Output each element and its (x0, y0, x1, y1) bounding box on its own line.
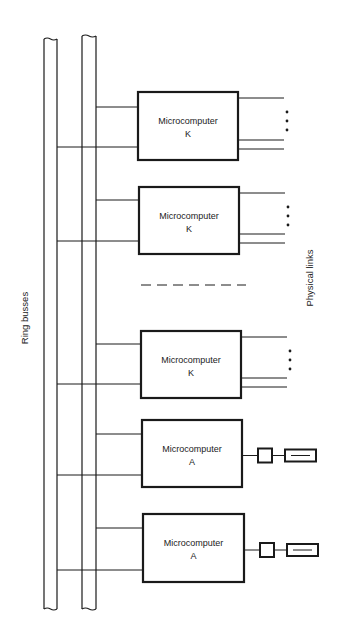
physical-links-label: Physical links (304, 249, 315, 306)
ring-busses-label: Ring busses (19, 292, 30, 345)
ellipsis-dot-icon (287, 215, 290, 218)
bus-break-top (82, 35, 96, 37)
ellipsis-dot-icon (287, 224, 290, 227)
peripheral-device (242, 449, 316, 463)
ring-bus-2 (82, 35, 96, 610)
microcomputer-a-4: MicrocomputerA (142, 420, 316, 487)
microcomputer-k-3: MicrocomputerK (141, 331, 291, 398)
microcomputer-k-2: MicrocomputerK (139, 187, 289, 254)
ring-busses (44, 35, 96, 610)
microcomputer-id: K (188, 368, 194, 378)
ellipsis-dot-icon (286, 129, 289, 132)
microcomputer-k-1: MicrocomputerK (138, 92, 288, 160)
bus-break-top (44, 38, 57, 40)
microcomputer-title: Microcomputer (159, 211, 219, 221)
bus-connections (57, 107, 143, 570)
ellipsis-dot-icon (287, 206, 290, 209)
microcomputer-title: Microcomputer (162, 444, 222, 454)
interface-square-icon (260, 543, 274, 557)
microcomputer-id: K (186, 224, 192, 234)
physical-links (241, 337, 291, 387)
peripheral-device (244, 543, 318, 557)
microcomputer-title: Microcomputer (164, 538, 224, 548)
bus-break-bottom (82, 608, 96, 610)
interface-square-icon (258, 449, 272, 463)
bus-break-bottom (44, 608, 57, 610)
microcomputer-id: K (185, 129, 191, 139)
microcomputer-title: Microcomputer (161, 355, 221, 365)
ellipsis-dot-icon (289, 368, 292, 371)
microcomputer-id: A (190, 551, 196, 561)
ellipsis-dot-icon (286, 120, 289, 123)
physical-links (239, 193, 289, 243)
ellipsis-dot-icon (286, 111, 289, 114)
physical-links (238, 98, 288, 149)
ellipsis-dot-icon (289, 350, 292, 353)
microcomputer-a-5: MicrocomputerA (143, 514, 318, 582)
ellipsis-dot-icon (289, 359, 292, 362)
microcomputer-id: A (189, 457, 195, 467)
microcomputer-title: Microcomputer (158, 116, 218, 126)
ring-bus-1 (44, 38, 57, 610)
microcomputers: MicrocomputerKMicrocomputerKMicrocompute… (138, 92, 318, 582)
ring-bus-diagram: MicrocomputerKMicrocomputerKMicrocompute… (0, 0, 341, 639)
